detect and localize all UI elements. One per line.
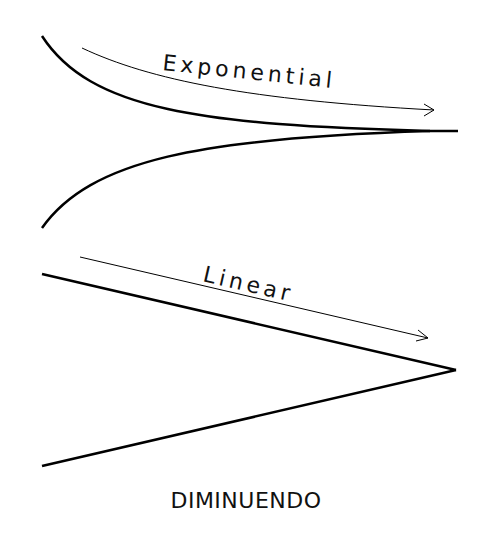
linear-hairpin: Linear (42, 257, 456, 466)
linear-lower-line (42, 370, 456, 466)
exponential-hairpin: Exponential (42, 36, 458, 228)
linear-label: Linear (201, 262, 297, 307)
diagram-title: DIMINUENDO (0, 488, 492, 513)
exponential-lower-curve (42, 131, 430, 228)
diminuendo-diagram: Exponential Linear (0, 0, 492, 552)
exponential-label: Exponential (161, 50, 337, 93)
